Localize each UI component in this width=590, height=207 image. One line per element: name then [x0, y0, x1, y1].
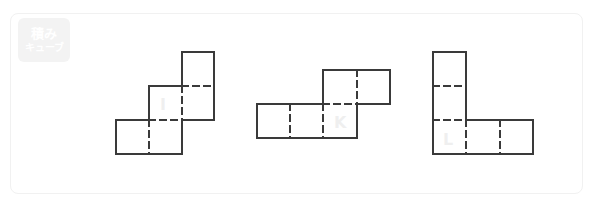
figure-label-i: I — [160, 95, 166, 114]
figure-label-l: L — [443, 130, 453, 149]
figure-label-k: K — [334, 113, 347, 132]
cube-nets: I K L — [0, 0, 590, 207]
figure-k — [257, 70, 390, 138]
